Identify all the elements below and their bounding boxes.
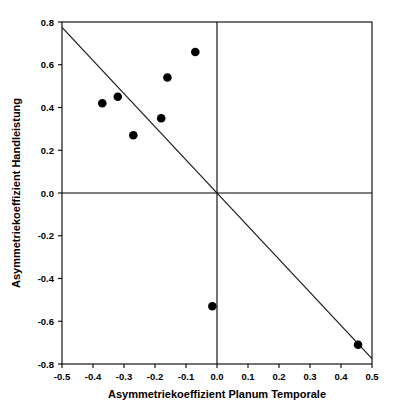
y-tick-label: 0.8 [41,17,54,28]
y-tick-label: 0.2 [41,145,54,156]
data-point [129,131,138,140]
x-tick-label: -0.5 [54,371,71,382]
x-tick-label: -0.2 [147,371,163,382]
x-tick-label: 0.3 [303,371,316,382]
y-tick-label: -0.2 [38,230,54,241]
x-tick-label: 0.4 [334,371,348,382]
data-point [163,73,172,82]
y-tick-label: 0.0 [41,188,54,199]
y-tick-label: -0.8 [38,359,54,370]
data-point [191,48,200,57]
data-point [208,302,217,311]
y-tick-label: 0.4 [41,102,55,113]
x-tick-label: -0.1 [178,371,195,382]
data-points [98,48,362,349]
plot-canvas: -0.5-0.4-0.3-0.2-0.10.00.10.20.30.40.5 0… [0,0,397,416]
data-point [98,99,107,108]
x-tick-label: 0.2 [272,371,285,382]
scatter-plot-figure: -0.5-0.4-0.3-0.2-0.10.00.10.20.30.40.5 0… [0,0,397,416]
x-axis-tick-labels: -0.5-0.4-0.3-0.2-0.10.00.10.20.30.40.5 [54,371,380,382]
x-axis-ticks [62,364,372,368]
y-tick-label: -0.6 [38,316,54,327]
x-tick-label: -0.3 [116,371,132,382]
y-tick-label: -0.4 [38,273,55,284]
data-point [354,340,363,349]
x-tick-label: -0.4 [85,371,102,382]
y-axis-ticks [58,22,62,364]
y-axis-title: Asymmetriekoeffizient Handleistung [10,98,22,288]
data-point [157,114,166,123]
x-tick-label: 0.5 [365,371,379,382]
x-tick-label: 0.0 [210,371,223,382]
y-axis-tick-labels: 0.80.60.40.20.0-0.2-0.4-0.6-0.8 [38,17,55,370]
x-tick-label: 0.1 [241,371,255,382]
data-point [114,93,123,102]
y-tick-label: 0.6 [41,59,54,70]
x-axis-title: Asymmetriekoeffizient Planum Temporale [108,388,326,400]
